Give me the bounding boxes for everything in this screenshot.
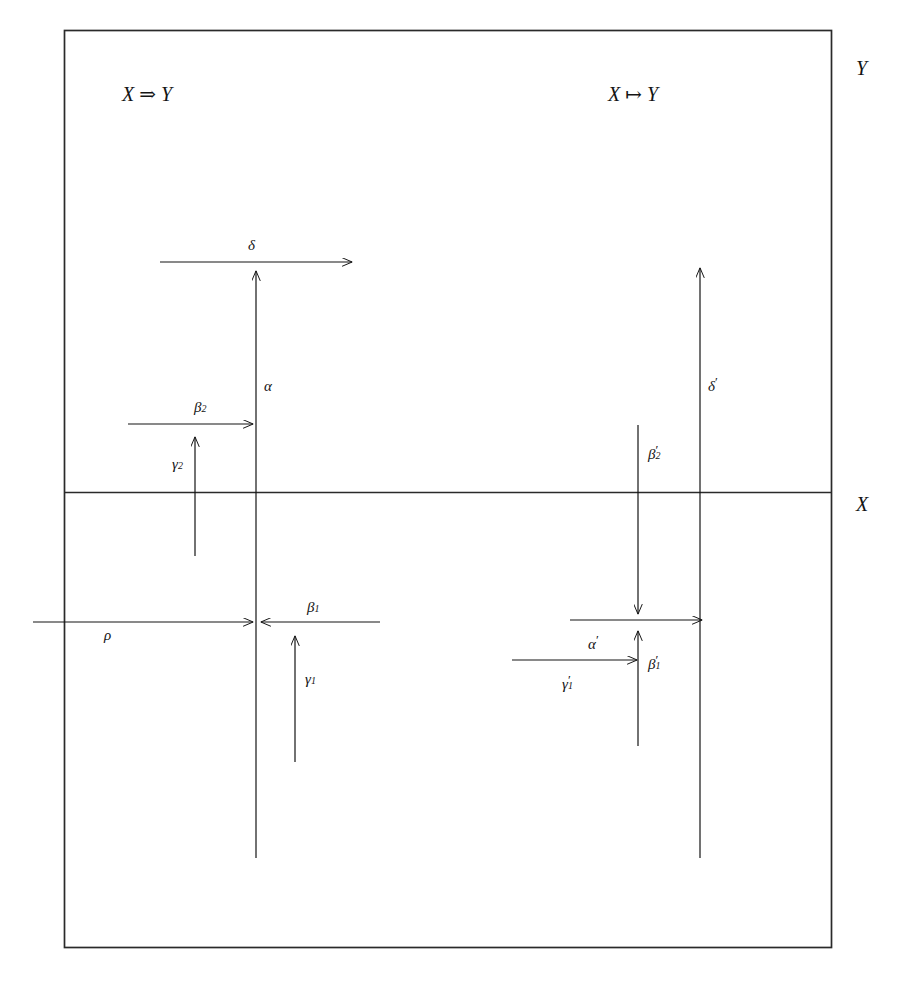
figure-page: Y X X ⇒ Y X ↦ Y δ α β2 γ2 ρ β1 γ1 δ′ β′2… [0, 0, 913, 982]
label-beta1-text: β [307, 599, 314, 615]
label-rho: ρ [104, 628, 111, 643]
label-gamma2: γ2 [172, 457, 178, 472]
label-delta-prime-text: δ [708, 378, 715, 394]
label-beta2-stack: β2 [194, 400, 201, 415]
frame-rect [65, 31, 832, 948]
label-beta2-text: β [194, 399, 201, 415]
label-gamma1: γ1 [305, 672, 311, 687]
label-beta2: β2 [194, 400, 201, 415]
label-delta-prime-mark: ′ [715, 375, 718, 388]
label-gamma1-prime-sub: 1 [568, 681, 573, 691]
label-alpha-prime: α′ [588, 637, 596, 652]
label-gamma1-stack: γ1 [305, 672, 311, 687]
label-alpha: α [264, 379, 272, 394]
outer-frame [65, 31, 832, 948]
label-alpha-prime-mark: ′ [596, 633, 599, 646]
label-rho-text: ρ [104, 627, 111, 643]
arrow-group-right [512, 268, 702, 858]
label-beta1-prime-stack: β′1 [648, 657, 655, 672]
label-alpha-prime-stack: α′ [588, 637, 596, 652]
label-alpha-text: α [264, 378, 272, 394]
label-beta2-sub: 2 [201, 404, 206, 414]
label-beta2-prime-sub: 2 [655, 451, 660, 461]
label-delta-prime: δ′ [708, 379, 715, 394]
region-label-y: Y [856, 58, 867, 78]
label-beta2-prime-stack: β′2 [648, 447, 655, 462]
diagram-canvas [0, 0, 913, 982]
label-beta1-prime: β′1 [648, 657, 655, 672]
label-alpha-prime-text: α [588, 636, 596, 652]
label-delta: δ [248, 238, 255, 253]
header-right-mapsto: X ↦ Y [608, 84, 658, 104]
label-delta-prime-stack: δ′ [708, 379, 715, 394]
label-beta1-prime-text: β [648, 656, 655, 672]
arrow-group-left [33, 262, 380, 858]
label-beta1-prime-sub: 1 [655, 661, 660, 671]
label-gamma1-prime: γ′1 [562, 677, 568, 692]
label-beta2-prime-text: β [648, 446, 655, 462]
label-beta1: β1 [307, 600, 314, 615]
label-gamma2-stack: γ2 [172, 457, 178, 472]
label-gamma2-sub: 2 [178, 461, 183, 471]
header-left-implication: X ⇒ Y [122, 84, 172, 104]
region-label-x: X [856, 494, 868, 514]
label-beta1-stack: β1 [307, 600, 314, 615]
label-beta2-prime: β′2 [648, 447, 655, 462]
label-delta-text: δ [248, 237, 255, 253]
label-gamma1-sub: 1 [311, 676, 316, 686]
label-gamma1-prime-stack: γ′1 [562, 677, 568, 692]
label-beta1-sub: 1 [314, 604, 319, 614]
